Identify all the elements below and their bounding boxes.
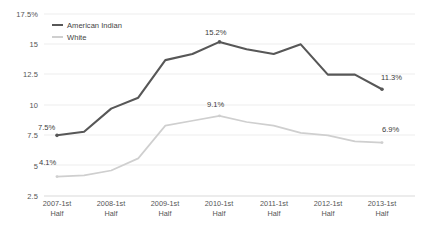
x-tick-label-2011: 2011-1st Half: [243, 199, 305, 219]
data-label-white-end: 6.9%: [382, 125, 399, 134]
x-tick-line1-2008: 2008-1st: [80, 199, 142, 209]
x-tick-label-2012: 2012-1st Half: [297, 199, 359, 219]
legend-label-white: White: [67, 33, 86, 42]
line-chart: 17.5% 15 12.5 10 7.5 5 2.5 American Indi…: [0, 0, 422, 229]
series-line-american-indian: [57, 42, 382, 135]
x-tick-line2-2007: Half: [26, 209, 88, 219]
data-label-ai-start: 7.5%: [38, 123, 55, 132]
legend-item-white: White: [52, 31, 122, 43]
x-tick-line2-2013: Half: [351, 209, 413, 219]
x-tick-line1-2013: 2013-1st: [351, 199, 413, 209]
x-tick-line1-2010: 2010-1st: [188, 199, 250, 209]
x-tick-line2-2011: Half: [243, 209, 305, 219]
legend-item-american-indian: American Indian: [52, 19, 122, 31]
data-label-ai-peak: 15.2%: [205, 28, 227, 37]
data-label-ai-end: 11.3%: [381, 73, 402, 82]
x-tick-line2-2009: Half: [134, 209, 196, 219]
x-tick-line2-2010: Half: [188, 209, 250, 219]
legend-label-american-indian: American Indian: [67, 21, 122, 30]
x-tick-label-2008: 2008-1st Half: [80, 199, 142, 219]
series-endpoint-markers: [55, 40, 384, 178]
legend-swatch-icon-white: [52, 36, 63, 38]
x-tick-label-2009: 2009-1st Half: [134, 199, 196, 219]
series-line-white: [57, 116, 382, 177]
data-label-white-peak: 9.1%: [207, 100, 224, 109]
x-tick-label-2010: 2010-1st Half: [188, 199, 250, 219]
x-tick-line1-2011: 2011-1st: [243, 199, 305, 209]
data-label-white-start: 4.1%: [39, 158, 56, 167]
x-tick-line1-2007: 2007-1st: [26, 199, 88, 209]
legend-swatch-icon-american-indian: [52, 24, 63, 27]
x-tick-line1-2012: 2012-1st: [297, 199, 359, 209]
x-tick-label-2007: 2007-1st Half: [26, 199, 88, 219]
x-tick-line2-2008: Half: [80, 209, 142, 219]
legend: American Indian White: [52, 19, 122, 43]
x-tick-label-2013: 2013-1st Half: [351, 199, 413, 219]
x-tick-line1-2009: 2009-1st: [134, 199, 196, 209]
x-tick-line2-2012: Half: [297, 209, 359, 219]
